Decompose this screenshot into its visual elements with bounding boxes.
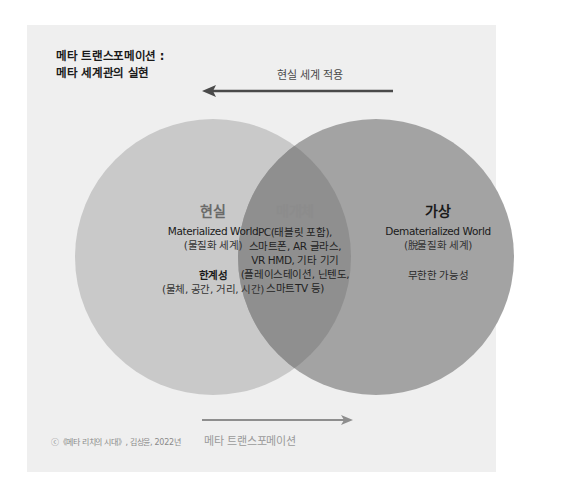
virtual-heading: 가상 xyxy=(363,200,513,220)
medium-heading: 매개체 xyxy=(235,200,355,220)
right-arrow-icon xyxy=(202,415,353,425)
medium-line: 스마트폰, AR 글라스, xyxy=(225,239,365,253)
medium-line: VR HMD, 기타 기기 xyxy=(225,253,365,267)
medium-line: 스마트TV 등) xyxy=(225,281,365,295)
left-arrow-icon xyxy=(202,85,393,97)
virtual-detail: 무한한 가능성 xyxy=(348,268,528,282)
bottom-arrow-label: 메타 트랜스포메이션 xyxy=(190,432,310,448)
medium-devices: PC(태블릿 포함), 스마트폰, AR 글라스, VR HMD, 기타 기기 … xyxy=(225,225,365,295)
source-credit: ⓒ《메타 리치의 시대》, 김상윤, 2022년 xyxy=(51,436,180,447)
virtual-korean: (脫물질화 세계) xyxy=(348,238,528,252)
medium-line: PC(태블릿 포함), xyxy=(225,225,365,239)
medium-line: (플레이스테이션, 닌텐도, xyxy=(225,267,365,281)
virtual-english: Dematerialized World xyxy=(348,224,528,238)
